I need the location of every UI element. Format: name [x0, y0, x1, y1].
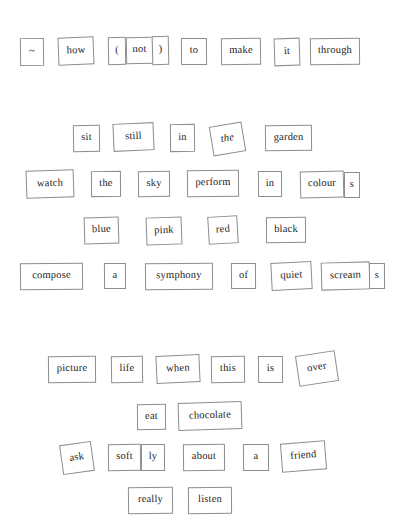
word-tile-scream-s[interactable]: s	[369, 263, 385, 289]
word-tile-this[interactable]: this	[211, 356, 245, 383]
word-tile-to[interactable]: to	[181, 38, 207, 65]
word-tile-scream[interactable]: scream	[321, 261, 371, 290]
word-tile-make[interactable]: make	[221, 38, 261, 65]
word-tile-in-1[interactable]: in	[170, 124, 195, 152]
word-tile-in-2[interactable]: in	[258, 171, 282, 197]
word-tile-sit[interactable]: sit	[73, 125, 100, 152]
word-tile-the-1[interactable]: the	[209, 121, 246, 156]
word-tile-a-2[interactable]: a	[243, 444, 269, 471]
word-tile-black[interactable]: black	[266, 217, 306, 243]
word-tile-colour[interactable]: colour	[300, 170, 345, 198]
word-tile-still[interactable]: still	[112, 122, 154, 152]
word-tile-picture[interactable]: picture	[48, 356, 96, 383]
word-tile-it[interactable]: it	[274, 38, 301, 67]
word-tile-friend[interactable]: friend	[280, 440, 327, 472]
word-tile-a-1[interactable]: a	[104, 263, 126, 289]
word-tile-of[interactable]: of	[231, 263, 256, 289]
word-tile-tilde[interactable]: ~	[20, 38, 44, 66]
word-tile-symphony[interactable]: symphony	[145, 263, 213, 291]
word-tile-pink[interactable]: pink	[146, 216, 183, 245]
word-tile-is[interactable]: is	[258, 356, 283, 383]
word-tile-colour-s[interactable]: s	[344, 172, 360, 198]
word-tile-when[interactable]: when	[155, 354, 200, 384]
poetry-board: ~how(not)tomakeitthroughsitstillinthegar…	[0, 0, 405, 523]
word-tile-compose[interactable]: compose	[20, 263, 83, 291]
word-tile-the-2[interactable]: the	[91, 171, 121, 197]
word-tile-chocolate[interactable]: chocolate	[178, 401, 243, 431]
word-tile-how[interactable]: how	[57, 36, 94, 65]
word-tile-garden[interactable]: garden	[265, 125, 312, 151]
word-tile-quiet[interactable]: quiet	[270, 261, 312, 291]
word-tile-really[interactable]: really	[128, 487, 173, 514]
word-tile-life[interactable]: life	[111, 356, 143, 383]
word-tile-soft[interactable]: soft	[108, 444, 141, 471]
word-tile-through[interactable]: through	[310, 38, 360, 65]
word-tile-not[interactable]: not	[126, 37, 153, 64]
word-tile-watch[interactable]: watch	[26, 169, 75, 199]
word-tile-listen[interactable]: listen	[188, 487, 232, 514]
word-tile-paren-close[interactable]: )	[152, 36, 170, 65]
word-tile-about[interactable]: about	[183, 444, 225, 471]
word-tile-ask[interactable]: ask	[59, 441, 95, 475]
word-tile-ly[interactable]: ly	[141, 444, 165, 471]
word-tile-sky[interactable]: sky	[138, 171, 170, 197]
word-tile-eat[interactable]: eat	[137, 404, 166, 430]
word-tile-perform[interactable]: perform	[187, 170, 239, 198]
word-tile-red[interactable]: red	[207, 215, 239, 245]
word-tile-blue[interactable]: blue	[84, 217, 120, 245]
word-tile-paren-open[interactable]: (	[108, 37, 126, 65]
word-tile-over[interactable]: over	[295, 350, 339, 387]
